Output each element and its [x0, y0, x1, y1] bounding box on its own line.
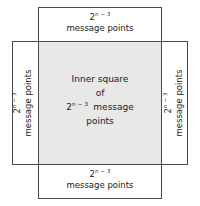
left-arm-units: message points — [23, 42, 34, 164]
right-arm-power-base: 2 — [163, 108, 173, 113]
top-arm-power-exponent: n − 3 — [95, 11, 111, 17]
inner-square-power: 2n − 3 — [66, 102, 88, 112]
top-arm-power: 2n − 3 — [39, 12, 161, 23]
left-arm-power-base: 2 — [12, 108, 22, 113]
bottom-arm-power-exponent: n − 3 — [95, 168, 111, 174]
right-arm-power-exponent: n − 3 — [162, 93, 168, 109]
left-arm-label: 2n − 3 message points — [12, 42, 36, 164]
inner-square-line-2: of — [39, 87, 161, 101]
inner-square-line-1: Inner square — [39, 73, 161, 87]
bottom-arm-label: 2n − 3 message points — [39, 169, 161, 191]
right-arm-label: 2n − 3 message points — [163, 42, 187, 164]
right-arm-units: message points — [174, 42, 185, 164]
inner-square-line-4: points — [39, 115, 161, 129]
inner-square-label: Inner square of 2n − 3message points — [39, 73, 161, 129]
right-arm-power: 2n − 3 — [163, 42, 174, 164]
left-arm-power: 2n − 3 — [12, 42, 23, 164]
top-arm-units: message points — [39, 23, 161, 34]
inner-square-units-first: message — [93, 102, 133, 112]
top-arm-label: 2n − 3 message points — [39, 12, 161, 34]
inner-square-line-3: 2n − 3message — [39, 101, 161, 115]
left-arm-power-exponent: n − 3 — [11, 93, 17, 109]
diagram-canvas: 2n − 3 message points 2n − 3 message poi… — [0, 0, 200, 206]
inner-square-power-exponent: n − 3 — [72, 101, 88, 107]
bottom-arm-units: message points — [39, 180, 161, 191]
bottom-arm-power: 2n − 3 — [39, 169, 161, 180]
